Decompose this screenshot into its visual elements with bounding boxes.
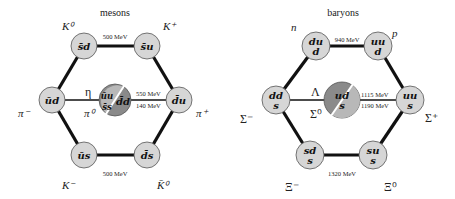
eightfold-way-diagram: mesons 500 MeV 500 MeV 550 MeV 140 MeV s… [0, 0, 455, 199]
quark-content-bottom: s [307, 155, 313, 166]
particle-label-eta: η [85, 85, 91, 99]
baryons-panel: baryons 940 MeV 1320 MeV 1115 MeV 1190 M… [240, 7, 438, 194]
particle-label: Σ⁺ [425, 111, 438, 125]
mass-label-top: 500 MeV [103, 33, 128, 40]
quark-content: d̄s [141, 150, 154, 161]
quark-content: d̄u [172, 95, 186, 106]
node-proton: uu d p [364, 27, 398, 60]
quark-dd: d̄d [116, 96, 130, 107]
mesons-title: mesons [100, 7, 130, 18]
quark-content: ūs [78, 150, 91, 161]
particle-label: Ξ⁰ [384, 180, 397, 194]
quark-content-bottom: s [273, 100, 279, 111]
particle-label: π⁻ [18, 107, 31, 119]
mass-label-lambda: 1115 MeV [361, 91, 389, 98]
quark-uu: ūu [101, 91, 113, 101]
particle-label: K⁺ [162, 20, 177, 32]
node-Kminus: ūs K⁻ [61, 142, 97, 191]
quark-content: s̄u [141, 41, 154, 52]
quark-content-bottom: s [339, 100, 345, 111]
particle-label: n [291, 21, 297, 33]
node-K0bar: d̄s K̄⁰ [134, 142, 170, 191]
quark-ss: s̄s [102, 102, 112, 112]
quark-content-bottom: s [407, 100, 413, 111]
quark-content-bottom: d [375, 46, 382, 57]
particle-label: K⁻ [61, 179, 76, 191]
mass-label-bottom: 1320 MeV [328, 170, 356, 177]
particle-label: K⁰ [61, 20, 75, 32]
particle-label-lambda: Λ [311, 85, 320, 99]
node-xi-minus: sd s Ξ⁻ [285, 141, 324, 194]
node-sigma-minus: dd s Σ⁻ [240, 86, 290, 126]
node-xi-zero: su s Ξ⁰ [359, 141, 397, 194]
particle-label: K̄⁰ [156, 179, 170, 191]
node-lambda-sigma0: ud s Λ Σ⁰ [310, 82, 360, 121]
node-Kplus: s̄u K⁺ [134, 20, 177, 59]
mass-label-pion: 140 MeV [136, 102, 161, 109]
mesons-panel: mesons 500 MeV 500 MeV 550 MeV 140 MeV s… [18, 7, 209, 191]
mass-label-eta: 550 MeV [136, 90, 161, 97]
particle-label-pi0: π⁰ [84, 107, 96, 119]
quark-content-bottom: d [313, 46, 320, 57]
particle-label: p [391, 27, 398, 39]
particle-label-sigma0: Σ⁰ [310, 107, 322, 121]
mass-label-bottom: 500 MeV [103, 170, 128, 177]
quark-content: ūd [45, 95, 59, 106]
particle-label: Ξ⁻ [285, 180, 299, 194]
node-piminus: ūd π⁻ [18, 87, 65, 119]
node-neutron: du d n [291, 21, 330, 60]
node-sigma-plus: uu s Σ⁺ [396, 86, 438, 125]
mass-label-sigma0: 1190 MeV [361, 102, 389, 109]
particle-label: Σ⁻ [240, 112, 253, 126]
node-eta-pi0: ūu s̄s d̄d η π⁰ [84, 84, 131, 119]
quark-content: s̄d [78, 41, 91, 52]
baryons-title: baryons [327, 7, 359, 18]
particle-label: π⁺ [196, 107, 209, 119]
node-K0: s̄d K⁰ [61, 20, 97, 59]
quark-content-bottom: s [370, 155, 376, 166]
mass-label-top: 940 MeV [335, 36, 360, 43]
